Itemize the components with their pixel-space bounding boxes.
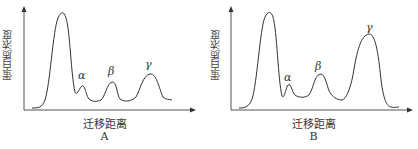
panel-label: B [209, 130, 418, 143]
x-axis-label: 迁移距离 [209, 115, 418, 131]
y-axis-label: 蛋白质浓度 [2, 30, 16, 80]
alpha-label: α [284, 71, 291, 84]
beta-label: β [315, 60, 321, 73]
alpha-label: α [78, 69, 85, 82]
chart-panel-a: 蛋白质浓度 α β γ 迁移距离 A [0, 0, 209, 149]
gamma-label: γ [366, 21, 373, 34]
x-axis-label: 迁移距离 [0, 115, 209, 131]
chart-panel-b: 蛋白质浓度 α β γ 迁移距离 B [209, 0, 418, 149]
y-axis-label: 蛋白质浓度 [210, 30, 224, 80]
panel-label: A [0, 130, 209, 143]
gamma-label: γ [145, 58, 152, 71]
beta-label: β [108, 65, 114, 78]
